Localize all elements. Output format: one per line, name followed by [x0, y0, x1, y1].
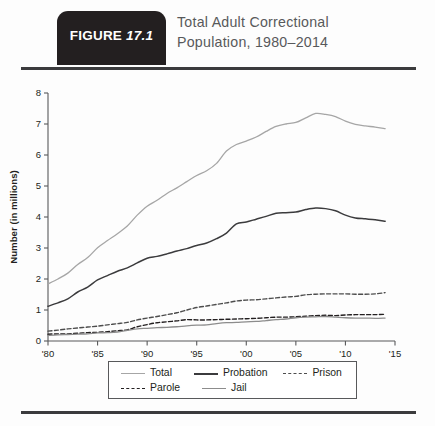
x-axis: '80'85'90'95'00'05'10'15: [42, 341, 401, 359]
y-tick-label: 8: [36, 87, 41, 98]
legend-item-total: Total: [121, 367, 172, 378]
legend-item-probation: Probation: [194, 367, 267, 378]
chart-legend: Total Probation Prison Parole Jail: [108, 361, 357, 399]
chart-plot-area: 012345678 '80'85'90'95'00'05'10'15 Numbe…: [0, 70, 435, 360]
y-tick-label: 4: [36, 211, 41, 222]
legend-label-total: Total: [150, 367, 172, 378]
y-tick-label: 5: [36, 180, 41, 191]
legend-label-prison: Prison: [312, 367, 341, 378]
figure-badge-word: FIGURE: [70, 28, 122, 43]
y-tick-label: 6: [36, 149, 41, 160]
legend-item-parole: Parole: [121, 382, 180, 393]
legend-swatch-probation: [194, 368, 218, 378]
legend-swatch-parole: [121, 383, 145, 393]
legend-label-jail: Jail: [231, 382, 247, 393]
legend-swatch-prison: [283, 368, 307, 378]
legend-row-2: Parole Jail: [109, 380, 356, 395]
y-tick-label: 1: [36, 304, 41, 315]
x-tick-label: '90: [141, 348, 153, 359]
figure-container: FIGURE 17.1 Total Adult Correctional Pop…: [0, 0, 435, 426]
x-tick-label: '95: [191, 348, 203, 359]
series-line-probation: [48, 208, 385, 306]
x-tick-label: '80: [42, 348, 54, 359]
footer-divider: [21, 411, 416, 414]
legend-swatch-jail: [202, 383, 226, 393]
legend-swatch-total: [121, 368, 145, 378]
series-line-total: [48, 113, 385, 284]
legend-item-jail: Jail: [202, 382, 247, 393]
y-axis: 012345678: [36, 87, 48, 346]
figure-badge-number: 17.1: [126, 28, 153, 43]
figure-title-line-1: Total Adult Correctional: [177, 13, 427, 33]
legend-item-prison: Prison: [283, 367, 341, 378]
figure-title-line-2: Population, 1980–2014: [177, 33, 427, 53]
x-tick-label: '00: [240, 348, 252, 359]
x-tick-label: '15: [389, 348, 401, 359]
y-tick-label: 3: [36, 242, 41, 253]
legend-label-probation: Probation: [223, 367, 267, 378]
legend-row-1: Total Probation Prison: [109, 365, 356, 380]
y-axis-title: Number (in millions): [8, 170, 19, 264]
figure-header: FIGURE 17.1 Total Adult Correctional Pop…: [0, 0, 435, 70]
x-tick-label: '05: [290, 348, 302, 359]
chart-series-group: [48, 113, 385, 335]
figure-title: Total Adult Correctional Population, 198…: [177, 13, 427, 52]
y-tick-label: 0: [36, 335, 41, 346]
x-tick-label: '85: [91, 348, 103, 359]
y-tick-label: 2: [36, 273, 41, 284]
line-chart: 012345678 '80'85'90'95'00'05'10'15 Numbe…: [0, 70, 435, 360]
x-tick-label: '10: [339, 348, 351, 359]
y-tick-label: 7: [36, 118, 41, 129]
figure-badge: FIGURE 17.1: [57, 11, 166, 60]
legend-label-parole: Parole: [150, 382, 180, 393]
figure-badge-text: FIGURE 17.1: [57, 11, 166, 60]
series-line-prison: [48, 293, 385, 331]
